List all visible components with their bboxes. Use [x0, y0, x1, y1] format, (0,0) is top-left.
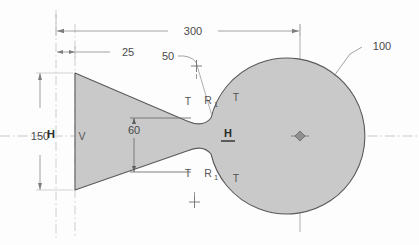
constraint-equal-lower-label: R — [204, 167, 212, 179]
dim-25-arrow-right — [69, 50, 75, 54]
dim-25-label[interactable]: 25 — [122, 46, 134, 58]
constraint-tangent-lower-right-label[interactable]: T — [233, 172, 240, 184]
dim-25-arrow-left — [57, 50, 63, 54]
dimension-boss-diameter[interactable]: 100 — [334, 40, 391, 76]
constraint-equal-upper[interactable]: R 1 — [204, 94, 218, 109]
dim-50-center-link — [196, 62, 212, 116]
sketch-profile-group[interactable] — [75, 58, 365, 214]
fillet-center-marker-lower — [189, 192, 200, 208]
dim-150-arrow-top — [38, 73, 42, 80]
dim-100-leader-line — [334, 47, 362, 76]
dim-50-leader-line — [178, 56, 196, 62]
constraint-tangent-lower-left-label[interactable]: T — [185, 167, 192, 179]
dim-100-label[interactable]: 100 — [373, 40, 391, 52]
constraint-equal-upper-label: R — [204, 94, 212, 106]
constraint-horizontal-left[interactable]: H — [47, 128, 55, 140]
dim-300-label[interactable]: 300 — [184, 25, 202, 37]
constraint-equal-lower-subscript: 1 — [214, 173, 218, 182]
constraint-horizontal-center-label: H — [224, 127, 232, 139]
dim-60-label[interactable]: 60 — [128, 124, 140, 136]
constraint-vertical-left-edge-label[interactable]: V — [78, 130, 85, 142]
cad-sketch-svg[interactable]: 300 25 150 60 — [0, 0, 419, 245]
constraint-tangent-upper-left-label[interactable]: T — [185, 95, 192, 107]
constraint-equal-upper-subscript: 1 — [214, 100, 218, 109]
constraint-tangent-upper-right-label[interactable]: T — [233, 91, 240, 103]
dim-50-label[interactable]: 50 — [162, 50, 174, 62]
profile-outline[interactable] — [75, 58, 365, 214]
constraint-horizontal-left-label: H — [47, 128, 55, 140]
dimension-left-offset[interactable]: 25 — [57, 46, 134, 58]
dim-300-arrow-right — [292, 29, 299, 33]
dimension-overall-length[interactable]: 300 — [56, 14, 300, 37]
cad-drawing-canvas[interactable]: 300 25 150 60 — [0, 0, 419, 245]
dim-150-arrow-bottom — [38, 183, 42, 190]
dim-300-arrow-left — [57, 29, 64, 33]
